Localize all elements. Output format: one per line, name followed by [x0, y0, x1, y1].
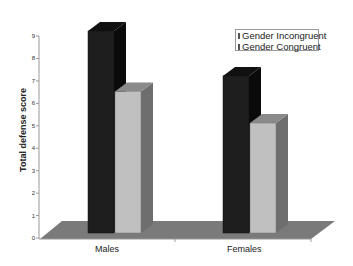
bar-gender-incongruent-males [88, 31, 114, 233]
legend-item-congruent: Gender Congruent [238, 42, 318, 53]
legend-swatch-icon [238, 33, 240, 39]
svg-text:6: 6 [32, 100, 36, 106]
legend: Gender Incongruent Gender Congruent [235, 29, 319, 51]
svg-text:5: 5 [32, 123, 36, 129]
legend-item-incongruent: Gender Incongruent [238, 31, 318, 42]
chart-floor [40, 221, 335, 239]
svg-text:2: 2 [32, 190, 36, 196]
bar-gender-incongruent-females [223, 76, 249, 233]
category-label-males: Males [95, 244, 119, 254]
bar-side [276, 114, 288, 233]
bar-gender-congruent-males [115, 92, 141, 233]
svg-text:9: 9 [32, 33, 36, 39]
bar-side [141, 83, 153, 233]
svg-text:1: 1 [32, 213, 36, 219]
category-label-females: Females [227, 244, 262, 254]
svg-text:0: 0 [32, 235, 36, 241]
svg-text:3: 3 [32, 168, 36, 174]
svg-text:8: 8 [32, 55, 36, 61]
svg-text:7: 7 [32, 78, 36, 84]
y-ticks: 0123456789 [32, 33, 39, 241]
bars [88, 22, 288, 233]
svg-text:4: 4 [32, 145, 36, 151]
legend-swatch-icon [238, 44, 240, 50]
y-axis-label: Total defense score [18, 85, 28, 175]
bar-gender-congruent-females [250, 123, 276, 233]
